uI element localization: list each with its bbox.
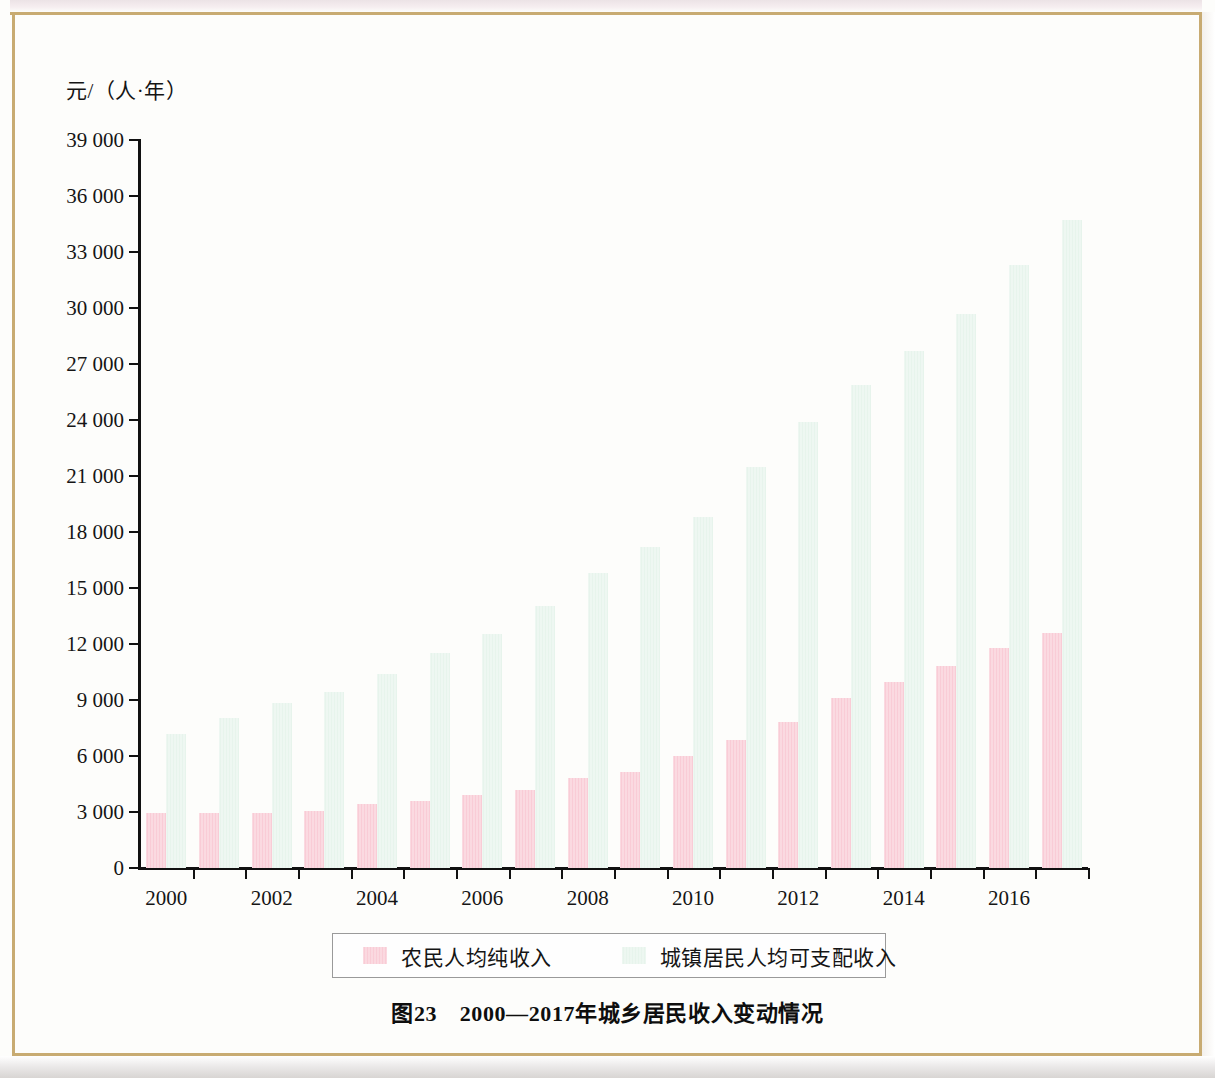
legend-label-urban: 城镇居民人均可支配收入 [660, 941, 897, 971]
bar-urban [430, 653, 450, 868]
bar-rural [357, 804, 377, 868]
x-axis-tick-label: 2006 [461, 886, 503, 911]
bar-rural [304, 811, 324, 868]
x-axis-tick [456, 868, 458, 879]
x-axis-tick [561, 868, 563, 879]
bar-urban [693, 517, 713, 868]
bar-urban [166, 734, 186, 868]
x-axis-tick-label: 2012 [777, 886, 819, 911]
bar-rural [620, 772, 640, 868]
legend-swatch-rural-icon [363, 947, 387, 964]
bar-rural [199, 813, 219, 868]
bar-urban [904, 351, 924, 868]
bar-urban [219, 718, 239, 868]
x-axis-tick [403, 868, 405, 879]
x-axis-tick [825, 868, 827, 879]
legend-item-urban: 城镇居民人均可支配收入 [622, 941, 897, 971]
bar-rural [884, 682, 904, 868]
x-axis-tick-label: 2014 [883, 886, 925, 911]
bar-urban [482, 634, 502, 868]
bar-rural [515, 790, 535, 868]
x-axis-tick [772, 868, 774, 879]
bar-urban [324, 692, 344, 868]
x-axis-tick [193, 868, 195, 879]
bar-urban [640, 547, 660, 868]
bar-rural [462, 795, 482, 868]
bar-chart: 元/（人·年） 03 0006 0009 00012 00015 00018 0… [0, 0, 1215, 1078]
bar-urban [956, 314, 976, 868]
bar-rural [831, 698, 851, 868]
bar-rural [673, 756, 693, 868]
bar-urban [1062, 220, 1082, 868]
legend-label-rural: 农民人均纯收入 [401, 941, 552, 971]
bar-rural [726, 740, 746, 868]
x-axis-tick [614, 868, 616, 879]
bar-urban [588, 573, 608, 868]
x-axis-tick-label: 2002 [251, 886, 293, 911]
bar-urban [798, 422, 818, 868]
x-axis-tick-label: 2010 [672, 886, 714, 911]
x-axis-tick [719, 868, 721, 879]
x-axis-tick [1035, 868, 1037, 879]
bars-layer [0, 0, 1215, 868]
bar-urban [535, 606, 555, 868]
x-axis-tick [298, 868, 300, 879]
x-axis-tick [1088, 868, 1090, 879]
legend-item-rural: 农民人均纯收入 [363, 941, 552, 971]
bar-urban [377, 674, 397, 868]
bar-rural [989, 648, 1009, 868]
x-axis-tick [351, 868, 353, 879]
x-axis-tick [930, 868, 932, 879]
x-axis-tick [877, 868, 879, 879]
bar-rural [778, 722, 798, 868]
bar-rural [936, 666, 956, 868]
figure-caption: 图23 2000—2017年城乡居民收入变动情况 [0, 995, 1215, 1027]
bar-urban [272, 703, 292, 868]
bar-urban [1009, 265, 1029, 868]
bar-urban [746, 467, 766, 868]
bar-rural [568, 778, 588, 868]
x-axis-tick [667, 868, 669, 879]
bar-urban [851, 385, 871, 868]
bar-rural [252, 813, 272, 868]
x-axis-tick [509, 868, 511, 879]
x-axis-tick-label: 2000 [145, 886, 187, 911]
x-axis-tick-label: 2016 [988, 886, 1030, 911]
bar-rural [146, 813, 166, 868]
chart-legend: 农民人均纯收入 城镇居民人均可支配收入 [332, 933, 886, 978]
x-axis-tick [245, 868, 247, 879]
x-axis-tick-label: 2004 [356, 886, 398, 911]
x-axis-tick [983, 868, 985, 879]
legend-swatch-urban-icon [622, 947, 646, 964]
bar-rural [410, 801, 430, 868]
bar-rural [1042, 633, 1062, 868]
x-axis-tick-label: 2008 [567, 886, 609, 911]
